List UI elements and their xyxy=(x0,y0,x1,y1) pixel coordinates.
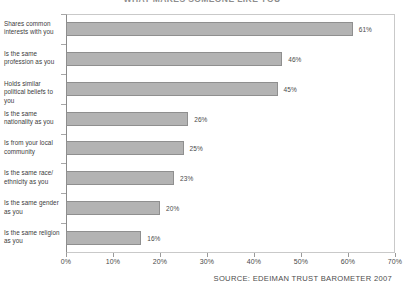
value-axis-tick xyxy=(348,253,349,257)
category-label: Is the same nationality as you xyxy=(4,110,62,127)
value-axis-tick xyxy=(66,253,67,257)
value-axis-tick xyxy=(254,253,255,257)
category-label: Is the same race/ ethnicity as you xyxy=(4,169,62,186)
bar-value-label: 25% xyxy=(190,145,203,152)
category-label: Holds similar political beliefs to you xyxy=(4,80,62,105)
bar-value-label: 45% xyxy=(284,85,297,92)
bar xyxy=(66,82,278,96)
value-axis-tick xyxy=(395,253,396,257)
category-label: Is the same profession as you xyxy=(4,50,62,67)
category-label: Shares common interests with you xyxy=(4,20,62,37)
value-axis-label: 10% xyxy=(106,258,120,265)
bar-value-label: 20% xyxy=(166,205,179,212)
bar-value-label: 16% xyxy=(147,235,160,242)
category-label: Is from your local community xyxy=(4,139,62,156)
bar-row: 61% xyxy=(66,22,395,36)
bar xyxy=(66,231,141,245)
bar-chart-figure: Shares common interests with youIs the s… xyxy=(0,0,404,289)
bar-row: 16% xyxy=(66,231,395,245)
bar xyxy=(66,201,160,215)
bar-row: 25% xyxy=(66,141,395,155)
value-axis-label: 0% xyxy=(61,258,71,265)
bar xyxy=(66,112,188,126)
value-axis-tick xyxy=(207,253,208,257)
bar-value-label: 61% xyxy=(359,25,372,32)
value-axis-label: 70% xyxy=(388,258,402,265)
bar-row: 45% xyxy=(66,82,395,96)
category-label: Is the same religion as you xyxy=(4,229,62,246)
value-axis-label: 50% xyxy=(294,258,308,265)
bar xyxy=(66,141,184,155)
category-label: Is the same gender as you xyxy=(4,199,62,216)
bar xyxy=(66,171,174,185)
bar xyxy=(66,22,353,36)
bar-value-label: 46% xyxy=(288,55,301,62)
value-axis-label: 40% xyxy=(247,258,261,265)
bars-container: 61%46%45%26%25%23%20%16% xyxy=(66,14,395,253)
value-axis-tick xyxy=(113,253,114,257)
value-axis-tick xyxy=(160,253,161,257)
bar-row: 46% xyxy=(66,52,395,66)
value-axis-tick xyxy=(301,253,302,257)
source-note: SOURCE: EDEIMAN TRUST BAROMETER 2007 xyxy=(214,274,392,283)
bar-row: 20% xyxy=(66,201,395,215)
bar-row: 26% xyxy=(66,112,395,126)
value-axis-label: 20% xyxy=(153,258,167,265)
value-axis-label: 60% xyxy=(341,258,355,265)
bar-value-label: 26% xyxy=(194,115,207,122)
bar-value-label: 23% xyxy=(180,175,193,182)
bar xyxy=(66,52,282,66)
bar-row: 23% xyxy=(66,171,395,185)
value-axis-label: 30% xyxy=(200,258,214,265)
